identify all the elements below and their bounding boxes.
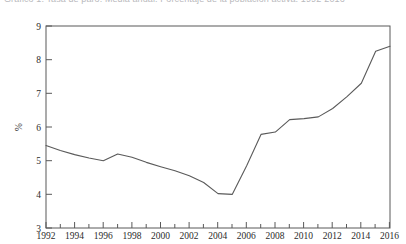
xtick-label: 2004	[208, 231, 227, 241]
y-axis-label: %	[14, 123, 24, 131]
xtick-label: 2002	[180, 231, 199, 241]
xtick-label: 2000	[151, 231, 170, 241]
ytick-label: 4	[36, 190, 41, 200]
data-series-line	[46, 46, 390, 194]
ytick-label: 7	[36, 89, 41, 99]
figure-container: Gráfico 1. Tasa de paro. Media anual. Po…	[0, 0, 406, 244]
ytick-label: 9	[36, 22, 41, 32]
y-axis-ticks	[46, 26, 52, 228]
plot-frame	[46, 26, 390, 228]
line-chart-svg: 9 8 7 6 5 4 3 %	[0, 0, 406, 244]
xtick-label: 2012	[323, 231, 342, 241]
xtick-label: 1992	[37, 231, 56, 241]
xtick-label: 1996	[94, 231, 113, 241]
xtick-label: 2016	[380, 231, 399, 241]
x-axis-tick-labels: 1992 1994 1996 1998 2000 2002 2004 2006 …	[37, 231, 400, 241]
xtick-label: 2006	[237, 231, 256, 241]
ytick-label: 6	[36, 123, 41, 133]
xtick-label: 2008	[266, 231, 285, 241]
xtick-label: 2010	[294, 231, 313, 241]
x-axis-major-ticks	[46, 222, 389, 228]
ytick-label: 8	[36, 55, 41, 65]
xtick-label: 1998	[122, 231, 141, 241]
y-axis-tick-labels: 9 8 7 6 5 4 3	[36, 22, 41, 234]
xtick-label: 2014	[351, 231, 370, 241]
xtick-label: 1994	[65, 231, 84, 241]
ytick-label: 5	[36, 156, 41, 166]
plot-area: 9 8 7 6 5 4 3 %	[0, 0, 406, 244]
